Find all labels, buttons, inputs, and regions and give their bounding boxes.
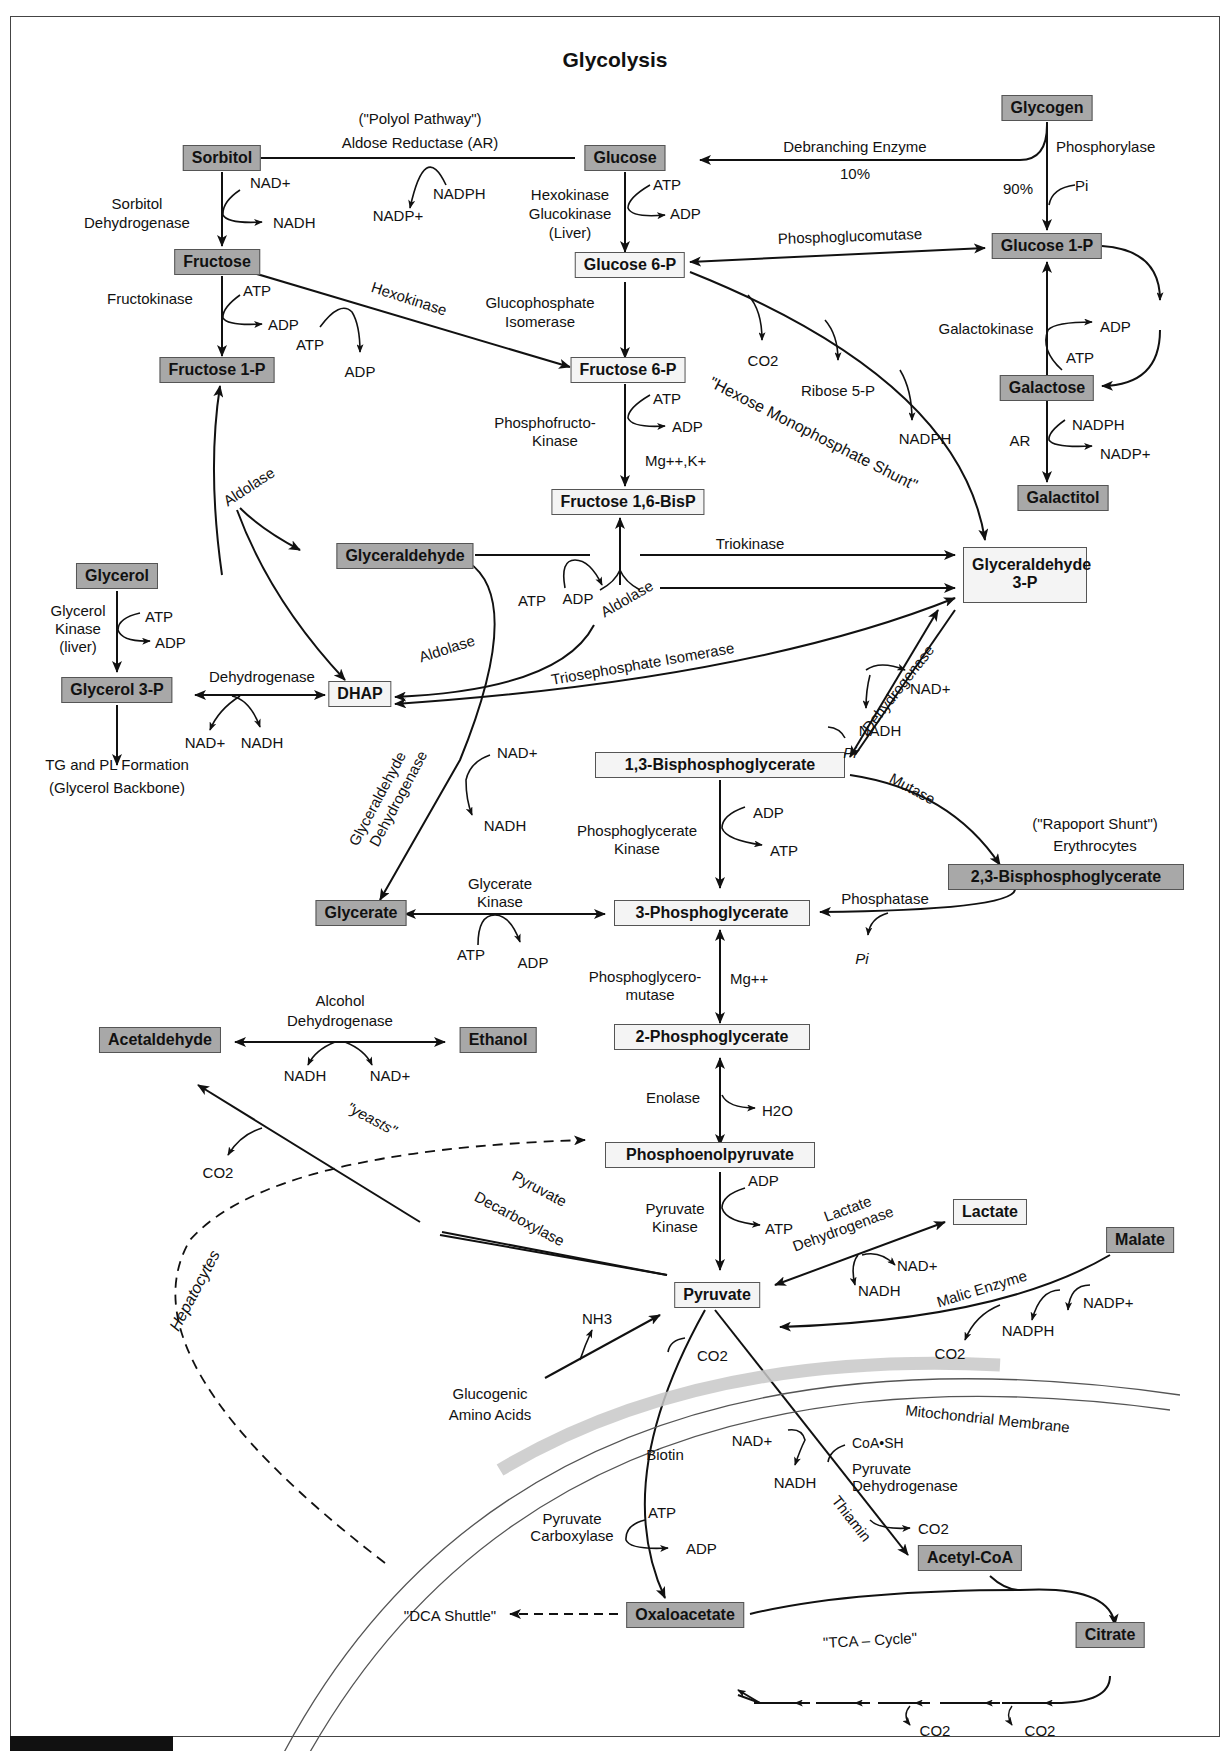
cofactor-atp-fructokinase: ATP bbox=[243, 282, 271, 299]
cofactor-co2-pdc: CO2 bbox=[203, 1164, 234, 1181]
node-13-bisphosphoglycerate: 1,3-Bisphosphoglycerate bbox=[595, 752, 845, 778]
cofactor-co2-hms: CO2 bbox=[748, 352, 779, 369]
label-sorbitol-dh-2: Dehydrogenase bbox=[84, 214, 190, 231]
label-kinase-pfk: Kinase bbox=[532, 432, 578, 449]
label-tg-pl-formation: TG and PL Formation bbox=[45, 756, 189, 773]
label-pyruvate-kinase-1: Pyruvate bbox=[645, 1200, 704, 1217]
label-pyruvate-dh-1: Pyruvate bbox=[852, 1460, 911, 1477]
node-glyceraldehyde-3p-line1: Glyceraldehyde bbox=[972, 556, 1078, 574]
cofactor-nadph-ar: NADPH bbox=[433, 185, 486, 202]
cofactor-pi-gapdh: Pi bbox=[843, 744, 856, 761]
cofactor-atp-galactokinase: ATP bbox=[1066, 349, 1094, 366]
node-fructose: Fructose bbox=[174, 249, 260, 275]
node-fructose-16-bisp: Fructose 1,6-BisP bbox=[551, 489, 704, 515]
cofactor-atp-pfk: ATP bbox=[653, 390, 681, 407]
label-glycerol-backbone: (Glycerol Backbone) bbox=[49, 779, 185, 796]
label-glycerol-3p-dehydrogenase: Dehydrogenase bbox=[209, 668, 315, 685]
cofactor-nadph-galactose: NADPH bbox=[1072, 416, 1125, 433]
cofactor-nadh-ldh: NADH bbox=[858, 1282, 901, 1299]
node-acetaldehyde: Acetaldehyde bbox=[99, 1027, 221, 1053]
cofactor-nadh-sdh: NADH bbox=[273, 214, 316, 231]
label-phosphorylase-pct: 90% bbox=[1003, 180, 1033, 197]
node-pyruvate: Pyruvate bbox=[674, 1282, 760, 1308]
label-pyruvate-carboxylase-1: Pyruvate bbox=[542, 1510, 601, 1527]
node-23-bisphosphoglycerate: 2,3-Bisphosphoglycerate bbox=[948, 864, 1184, 890]
label-phosphatase: Phosphatase bbox=[841, 890, 929, 907]
node-dhap: DHAP bbox=[328, 681, 391, 707]
label-dca-shuttle: "DCA Shuttle" bbox=[404, 1607, 496, 1624]
cofactor-adp-hexokinase-fructose: ADP bbox=[345, 363, 376, 380]
cofactor-nadp-malic-enzyme: NADP+ bbox=[1083, 1294, 1133, 1311]
cofactor-adp-pc: ADP bbox=[686, 1540, 717, 1557]
node-glucose: Glucose bbox=[584, 145, 665, 171]
cofactor-nh3: NH3 bbox=[582, 1310, 612, 1327]
cofactor-co2-pdh: CO2 bbox=[918, 1520, 949, 1537]
node-2-phosphoglycerate: 2-Phosphoglycerate bbox=[614, 1024, 810, 1050]
label-rapoport-shunt: ("Rapoport Shunt") bbox=[1032, 815, 1158, 832]
node-glucose-6p: Glucose 6-P bbox=[575, 252, 685, 278]
node-3-phosphoglycerate: 3-Phosphoglycerate bbox=[614, 900, 810, 926]
cofactor-adp-pk: ADP bbox=[748, 1172, 779, 1189]
cofactor-pi-phosphorylase: Pi bbox=[1075, 177, 1088, 194]
cofactor-nad-sdh: NAD+ bbox=[250, 174, 290, 191]
label-glucophosphate: Glucophosphate bbox=[485, 294, 594, 311]
cofactor-nad-pdh: NAD+ bbox=[732, 1432, 772, 1449]
node-glycerol-3p: Glycerol 3-P bbox=[61, 677, 172, 703]
node-lactate: Lactate bbox=[953, 1199, 1027, 1225]
label-glycerol-kinase-3: (liver) bbox=[59, 638, 97, 655]
label-phosphoglyceromutase-2: mutase bbox=[625, 986, 674, 1003]
label-alcohol-dh-2: Dehydrogenase bbox=[287, 1012, 393, 1029]
cofactor-adp-pgk: ADP bbox=[753, 804, 784, 821]
cofactor-adp-glycerate-kinase: ADP bbox=[518, 954, 549, 971]
cofactor-h2o-enolase: H2O bbox=[762, 1102, 793, 1119]
label-polyol-pathway: ("Polyol Pathway") bbox=[358, 110, 481, 127]
cofactor-nadph-hms: NADPH bbox=[899, 430, 952, 447]
cofactor-co2-pc: CO2 bbox=[697, 1347, 728, 1364]
cofactor-nadp-ar: NADP+ bbox=[373, 207, 423, 224]
label-ar: AR bbox=[1010, 432, 1031, 449]
node-malate: Malate bbox=[1106, 1227, 1174, 1253]
label-coa-sh: CoA•SH bbox=[852, 1435, 904, 1452]
cofactor-nad-g3p-dh: NAD+ bbox=[185, 734, 225, 751]
label-glycerate-kinase-2: Kinase bbox=[477, 893, 523, 910]
cofactor-atp-glycerate-kinase: ATP bbox=[457, 946, 485, 963]
cofactor-adp-pfk: ADP bbox=[672, 418, 703, 435]
label-liver: (Liver) bbox=[549, 224, 592, 241]
cofactor-nadh-pdh: NADH bbox=[774, 1474, 817, 1491]
cofactor-atp-hk: ATP bbox=[653, 176, 681, 193]
node-glyceraldehyde-3p: Glyceraldehyde 3-P bbox=[963, 547, 1087, 603]
cofactor-atp-pk: ATP bbox=[765, 1220, 793, 1237]
label-pyruvate-dh-2: Dehydrogenase bbox=[852, 1477, 958, 1494]
label-sorbitol-dh-1: Sorbitol bbox=[112, 195, 163, 212]
node-glyceraldehyde: Glyceraldehyde bbox=[336, 543, 473, 569]
label-amino-acids: Amino Acids bbox=[449, 1406, 532, 1423]
label-glycerol-kinase-2: Kinase bbox=[55, 620, 101, 637]
cofactor-nadph-malic-enzyme: NADPH bbox=[1002, 1322, 1055, 1339]
node-acetyl-coa: Acetyl-CoA bbox=[918, 1545, 1022, 1571]
node-phosphoenolpyruvate: Phosphoenolpyruvate bbox=[605, 1142, 815, 1168]
node-glyceraldehyde-3p-line2: 3-P bbox=[972, 574, 1078, 592]
cofactor-co2-tca-2: CO2 bbox=[1025, 1722, 1056, 1739]
node-glucose-1p: Glucose 1-P bbox=[992, 233, 1102, 259]
cofactor-pi-phosphatase: Pi bbox=[855, 950, 868, 967]
label-glucogenic: Glucogenic bbox=[452, 1385, 527, 1402]
cofactor-adp-glycerol-kinase: ADP bbox=[155, 634, 186, 651]
label-pfk-cofactor: Mg++,K+ bbox=[645, 452, 706, 469]
node-glycerol: Glycerol bbox=[76, 563, 158, 589]
label-alcohol-dh-1: Alcohol bbox=[315, 992, 364, 1009]
cofactor-atp-hexokinase-fructose: ATP bbox=[296, 336, 324, 353]
diagram-title: Glycolysis bbox=[562, 48, 667, 72]
label-pyruvate-kinase-2: Kinase bbox=[652, 1218, 698, 1235]
cofactor-nad-adh: NAD+ bbox=[370, 1067, 410, 1084]
node-fructose-6p: Fructose 6-P bbox=[571, 357, 686, 383]
cofactor-nadh-glyceraldehyde-dh: NADH bbox=[484, 817, 527, 834]
node-galactose: Galactose bbox=[1000, 375, 1094, 401]
label-triokinase: Triokinase bbox=[716, 535, 785, 552]
cofactor-atp-triokinase: ATP bbox=[518, 592, 546, 609]
label-pgm-cofactor: Mg++ bbox=[730, 970, 768, 987]
label-galactokinase: Galactokinase bbox=[938, 320, 1033, 337]
label-fructokinase: Fructokinase bbox=[107, 290, 193, 307]
cofactor-atp-pgk: ATP bbox=[770, 842, 798, 859]
label-aldose-reductase: Aldose Reductase (AR) bbox=[342, 134, 499, 151]
cofactor-adp-triokinase: ADP bbox=[563, 590, 594, 607]
